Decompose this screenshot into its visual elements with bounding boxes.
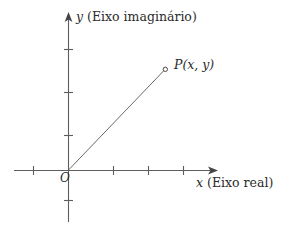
y-axis-label: y (Eixo imaginário) xyxy=(76,11,197,24)
point-p-marker xyxy=(163,67,167,71)
x-axis-symbol: x xyxy=(196,175,203,190)
x-axis-label: x (Eixo real) xyxy=(196,177,273,190)
y-axis-description: (Eixo imaginário) xyxy=(87,9,197,24)
origin-label: O xyxy=(60,172,70,184)
origin-to-point-segment xyxy=(69,71,165,171)
argand-diagram-canvas xyxy=(0,0,295,232)
x-axis-description: (Eixo real) xyxy=(207,175,273,190)
point-p-coordinates: (x, y) xyxy=(182,57,214,72)
point-p-label: P(x, y) xyxy=(174,59,214,72)
y-axis-symbol: y xyxy=(76,9,83,24)
argand-diagram-figure: y (Eixo imaginário) x (Eixo real) O P(x,… xyxy=(0,0,295,232)
